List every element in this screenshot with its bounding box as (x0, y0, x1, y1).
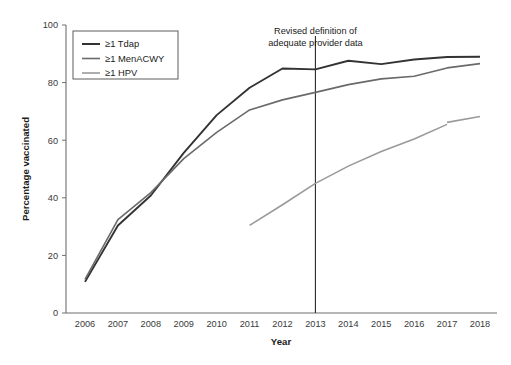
x-tick-label: 2014 (338, 319, 358, 329)
x-tick-label: 2010 (206, 319, 226, 329)
x-tick-label: 2009 (174, 319, 194, 329)
x-tick-label: 2007 (108, 319, 128, 329)
x-tick-label: 2008 (141, 319, 161, 329)
x-tick-label: 2018 (470, 319, 490, 329)
y-tick-label: 40 (48, 193, 58, 203)
y-tick-label: 20 (48, 251, 58, 261)
x-tick-label: 2017 (437, 319, 457, 329)
legend-label-1: ≥1 MenACWY (105, 53, 165, 64)
x-tick-label: 2013 (305, 319, 325, 329)
figure-container: 020406080100 200620072008200920102011201… (0, 0, 511, 365)
annotation-line-1: Revised definition of (274, 26, 357, 36)
y-tick-label: 80 (48, 78, 58, 88)
legend-label-0: ≥1 Tdap (105, 38, 139, 49)
y-tick-label: 0 (53, 308, 58, 318)
y-tick-label: 100 (43, 20, 58, 30)
x-tick-label: 2015 (371, 319, 391, 329)
x-axis-title: Year (271, 336, 292, 347)
x-tick-label: 2012 (272, 319, 292, 329)
x-tick-label: 2016 (404, 319, 424, 329)
chart-legend: ≥1 Tdap≥1 MenACWY≥1 HPV (73, 31, 178, 79)
vaccination-coverage-line-chart: 020406080100 200620072008200920102011201… (0, 0, 511, 365)
annotation-line-2: adequate provider data (268, 38, 363, 48)
y-tick-label: 60 (48, 136, 58, 146)
legend-label-2: ≥1 HPV (105, 67, 138, 78)
y-axis-title: Percentage vaccinated (20, 117, 31, 221)
x-tick-label: 2006 (75, 319, 95, 329)
x-tick-label: 2011 (240, 319, 260, 329)
